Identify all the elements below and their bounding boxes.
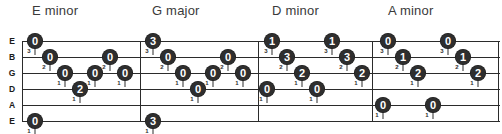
fret-note[interactable]: 0 bbox=[441, 34, 456, 49]
string-label-0: E bbox=[6, 36, 18, 46]
finger-number: 2 bbox=[42, 64, 45, 70]
finger-number: 1 bbox=[205, 80, 208, 86]
staff-line-1 bbox=[22, 57, 500, 58]
finger-number: 1 bbox=[425, 112, 428, 118]
finger-number: 1 bbox=[27, 128, 30, 134]
finger-number: 3 bbox=[380, 48, 383, 54]
string-label-5: E bbox=[6, 116, 18, 126]
section-title: D minor bbox=[272, 3, 319, 18]
finger-number: 1 bbox=[87, 80, 90, 86]
fret-note[interactable]: 3 bbox=[340, 50, 355, 65]
finger-number: 2 bbox=[160, 64, 163, 70]
fret-note[interactable]: 1 bbox=[325, 34, 340, 49]
finger-number: 3 bbox=[264, 48, 267, 54]
finger-number: 3 bbox=[440, 48, 443, 54]
finger-number: 1 bbox=[410, 80, 413, 86]
fret-note[interactable]: 0 bbox=[28, 34, 43, 49]
string-label-1: B bbox=[6, 52, 18, 62]
fret-note[interactable]: 0 bbox=[176, 66, 191, 81]
barline-1 bbox=[140, 41, 141, 121]
staff-line-0 bbox=[22, 41, 500, 42]
finger-number: 1 bbox=[190, 96, 193, 102]
fret-note[interactable]: 2 bbox=[73, 82, 88, 97]
barline-4 bbox=[498, 41, 499, 121]
fret-note[interactable]: 0 bbox=[376, 98, 391, 113]
fret-note[interactable]: 0 bbox=[381, 34, 396, 49]
finger-number: 3 bbox=[27, 48, 30, 54]
section-title: A minor bbox=[388, 3, 433, 18]
barline-0 bbox=[22, 41, 23, 121]
fret-note[interactable]: 2 bbox=[471, 66, 486, 81]
fret-note[interactable]: 3 bbox=[146, 114, 161, 129]
section-title: E minor bbox=[32, 3, 78, 18]
finger-number: 2 bbox=[339, 64, 342, 70]
fret-note[interactable]: 0 bbox=[426, 98, 441, 113]
finger-number: 2 bbox=[395, 64, 398, 70]
finger-number: 3 bbox=[145, 48, 148, 54]
fret-note[interactable]: 0 bbox=[118, 66, 133, 81]
fret-note[interactable]: 0 bbox=[236, 66, 251, 81]
fret-note[interactable]: 0 bbox=[260, 82, 275, 97]
finger-number: 1 bbox=[470, 80, 473, 86]
tablature-sheet: E minorG majorD minorA minor EBGDAE 0302… bbox=[0, 0, 502, 134]
fret-note[interactable]: 0 bbox=[28, 114, 43, 129]
fret-note[interactable]: 2 bbox=[295, 66, 310, 81]
fret-note[interactable]: 2 bbox=[355, 66, 370, 81]
fret-note[interactable]: 0 bbox=[43, 50, 58, 65]
finger-number: 1 bbox=[145, 128, 148, 134]
finger-number: 2 bbox=[455, 64, 458, 70]
fret-note[interactable]: 0 bbox=[221, 50, 236, 65]
string-label-2: G bbox=[6, 68, 18, 78]
barline-2 bbox=[258, 41, 259, 121]
fret-note[interactable]: 1 bbox=[456, 50, 471, 65]
finger-number: 1 bbox=[57, 80, 60, 86]
finger-number: 1 bbox=[175, 80, 178, 86]
finger-number: 3 bbox=[324, 48, 327, 54]
fret-note[interactable]: 3 bbox=[146, 34, 161, 49]
fret-note[interactable]: 3 bbox=[280, 50, 295, 65]
fret-note[interactable]: 0 bbox=[58, 66, 73, 81]
fret-note[interactable]: 2 bbox=[411, 66, 426, 81]
fret-note[interactable]: 0 bbox=[206, 66, 221, 81]
fret-note[interactable]: 0 bbox=[310, 82, 325, 97]
fret-note[interactable]: 0 bbox=[88, 66, 103, 81]
barline-3 bbox=[372, 41, 373, 121]
fret-note[interactable]: 0 bbox=[161, 50, 176, 65]
finger-number: 1 bbox=[259, 96, 262, 102]
finger-number: 1 bbox=[117, 80, 120, 86]
fret-note[interactable]: 1 bbox=[265, 34, 280, 49]
finger-number: 1 bbox=[309, 96, 312, 102]
string-label-4: A bbox=[6, 100, 18, 110]
finger-number: 2 bbox=[279, 64, 282, 70]
finger-number: 1 bbox=[235, 80, 238, 86]
tab-staff: EBGDAE 030201210102010133020101010201311… bbox=[0, 26, 502, 134]
finger-number: 1 bbox=[375, 112, 378, 118]
fret-note[interactable]: 0 bbox=[191, 82, 206, 97]
finger-number: 1 bbox=[72, 96, 75, 102]
section-title: G major bbox=[152, 3, 200, 18]
finger-number: 1 bbox=[294, 80, 297, 86]
fret-note[interactable]: 0 bbox=[103, 50, 118, 65]
string-label-3: D bbox=[6, 84, 18, 94]
fret-note[interactable]: 1 bbox=[396, 50, 411, 65]
finger-number: 1 bbox=[354, 80, 357, 86]
finger-number: 2 bbox=[220, 64, 223, 70]
staff-line-5 bbox=[22, 121, 500, 122]
finger-number: 2 bbox=[102, 64, 105, 70]
